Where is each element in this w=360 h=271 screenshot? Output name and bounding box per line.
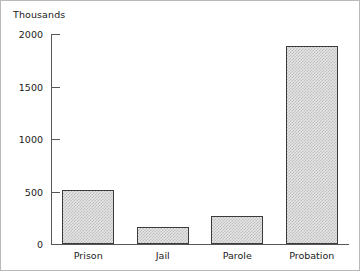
x-tick-label-prison: Prison [74,250,103,261]
y-tick-mark [52,244,60,245]
y-tick-label: 500 [25,186,43,197]
y-tick-label: 2000 [19,29,43,40]
bar-group-jail: Jail [126,34,201,244]
y-tick-label: 1000 [19,134,43,145]
y-axis-units-label: Thousands [13,9,65,20]
x-axis-line [51,244,349,245]
bar-probation [286,46,338,244]
bar-series: PrisonJailParoleProbation [51,34,349,244]
x-tick-label-probation: Probation [289,250,334,261]
bar-jail [137,227,189,244]
y-tick-label: 1500 [19,81,43,92]
bar-group-parole: Parole [200,34,275,244]
x-tick-label-jail: Jail [156,250,170,261]
y-tick-label: 0 [37,239,43,250]
bar-group-prison: Prison [51,34,126,244]
bar-parole [211,216,263,244]
bar-chart-figure: Thousands 0500100015002000 PrisonJailPar… [0,0,360,271]
bar-prison [62,190,114,244]
bar-group-probation: Probation [275,34,350,244]
x-tick-label-parole: Parole [223,250,252,261]
plot-area: 0500100015002000 PrisonJailParoleProbati… [51,34,349,244]
